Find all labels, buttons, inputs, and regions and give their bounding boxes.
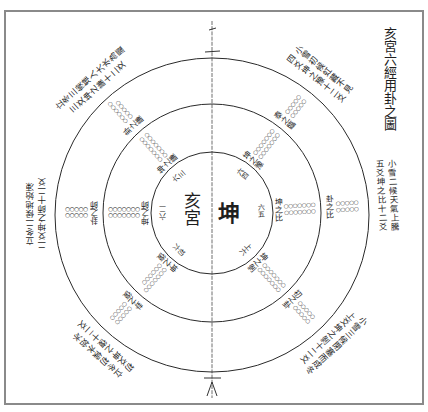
inner-line-label: 六二 bbox=[158, 206, 167, 221]
inner-line-label: 初六 bbox=[170, 241, 188, 258]
inner-line-label: 六五 bbox=[257, 202, 267, 217]
center-hexagram-label: 坤 bbox=[218, 200, 240, 226]
spoke-upper-right: 六四 坤之豫 ○○○○○○○ ○○○○○○○ 泰之臨 ○○○○○ ○○○○○ 小… bbox=[211, 44, 355, 200]
annotation-column-1: 小雪二候天氣上騰 bbox=[385, 158, 399, 231]
spoke-lower-left: 初六 坤之復 ○○○○○○○ ○○○○○○ 卦之復 ○○○○○ ○○○○○ 立冬… bbox=[68, 229, 217, 383]
axis-top-tick bbox=[205, 51, 220, 52]
axis-bottom-mark-right bbox=[212, 382, 217, 396]
diagram-title: 亥宮六經用卦之圖 bbox=[383, 27, 398, 131]
inner-line-label: 六三 bbox=[170, 168, 187, 185]
middle-ring-label: 坤之比 bbox=[273, 196, 283, 222]
inner-line-label: 上六 bbox=[237, 240, 255, 257]
axis-top-mark bbox=[209, 28, 216, 30]
spoke-right: 六五 坤之比 ○○○○○○○ ○○○○○○○ 卦之比 ○○○○○ ○○○○○ 小… bbox=[255, 158, 400, 238]
annotation-column-2: 二爻坤之師十二爻 bbox=[38, 177, 48, 249]
manuscript-diagram: 亥宮六經用卦之圖 亥宮 坤 六五 坤之比 ○○○○○○○ ○○○○○○○ 卦之比… bbox=[0, 0, 428, 412]
spoke-upper-left: 六三 坤之謙 ○○○○○○○ ○○○○○○○ 卦之謙 ○○○○○○ ○○○○○ … bbox=[53, 45, 215, 211]
outer-ring-dots-row: ○○○○○ bbox=[65, 207, 88, 213]
spoke-left: 六二 坤之師 ○○○○○○○ ○○○○○○○ 卦之師 ○○○○○ ○○○○○ 立… bbox=[26, 177, 167, 249]
inner-line-label: 六四 bbox=[233, 166, 251, 183]
axis-bottom-mark-left bbox=[207, 382, 212, 396]
outer-ring-dots-row: ○○○○○ bbox=[336, 206, 359, 213]
outer-ring-dots-row: ○○○○○ bbox=[65, 213, 88, 219]
middle-ring-dots-row: ○○○○○○○ bbox=[108, 207, 140, 213]
outer-ring-label: 卦之師 bbox=[91, 200, 100, 226]
center-palace-label: 亥宮 bbox=[181, 192, 201, 226]
middle-ring-dots-row: ○○○○○○○ bbox=[284, 208, 316, 216]
middle-ring-label: 坤之師 bbox=[142, 200, 151, 226]
middle-ring-dots-row: ○○○○○○○ bbox=[108, 213, 140, 219]
outer-ring-label: 卦之比 bbox=[324, 194, 334, 220]
annotation-column-1: 立冬二候地始凍 bbox=[26, 182, 36, 246]
